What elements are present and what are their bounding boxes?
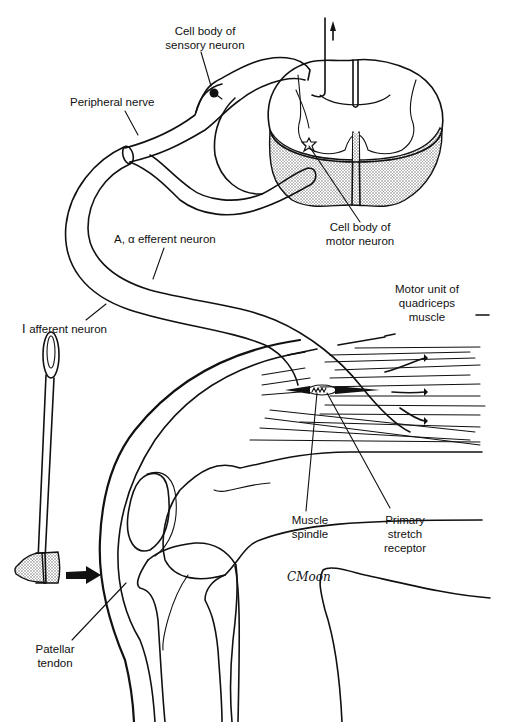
artist-signature: CMoon [287,570,331,584]
label-motor-unit: Motor unit of quadriceps muscle [382,282,472,324]
label-muscle-spindle: Muscle spindle [280,513,340,541]
ascending-fiber [312,18,336,97]
label-line: stretch [370,527,440,541]
label-line: Cell body of [150,24,260,38]
reflex-hammer-icon[interactable] [15,332,60,583]
label-line: spindle [280,527,340,541]
label-cell-body-motor: Cell body of motor neuron [305,220,415,248]
label-afferent-neuron: Ⅰ afferent neuron [22,322,107,336]
label-peripheral-nerve: Peripheral nerve [70,95,154,109]
arrow-right-icon [66,566,101,584]
label-line: sensory neuron [150,38,260,52]
quadriceps-muscle [250,315,489,445]
label-line: muscle [382,310,472,324]
label-line: quadriceps [382,296,472,310]
label-patellar-tendon: Patellar tendon [20,642,90,670]
label-line: Cell body of [305,220,415,234]
label-line: motor neuron [305,234,415,248]
label-line: Motor unit of [382,282,472,296]
label-line: Muscle [280,513,340,527]
spinal-cord [268,59,443,206]
label-line: tendon [20,656,90,670]
label-line: receptor [370,541,440,555]
label-a-alpha-efferent: A, α efferent neuron [114,232,216,246]
arrow-up-icon [330,21,336,31]
label-primary-stretch-receptor: Primary stretch receptor [370,513,440,555]
leader-lines [72,52,390,640]
label-line: Patellar [20,642,90,656]
label-line: Primary [370,513,440,527]
label-cell-body-sensory: Cell body of sensory neuron [150,24,260,52]
